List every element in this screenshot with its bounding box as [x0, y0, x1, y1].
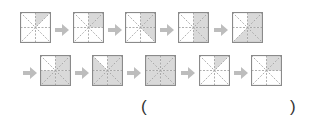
pattern-square-r1-5: [232, 12, 263, 43]
pattern-square-r1-2: [73, 12, 104, 43]
answer-open-paren: (: [141, 98, 147, 115]
pattern-square-r1-1: [20, 12, 51, 43]
pattern-square-r2-1: [40, 55, 71, 86]
pattern-square-r2-3: [145, 55, 176, 86]
arrow-right-icon: [160, 22, 174, 34]
arrow-right-icon: [75, 65, 89, 77]
arrow-right-icon: [234, 65, 248, 77]
pattern-square-r2-5: [251, 55, 282, 86]
arrow-right-icon: [55, 22, 69, 34]
arrow-right-icon: [127, 65, 141, 77]
arrow-right-icon: [181, 65, 195, 77]
arrow-right-icon: [214, 22, 228, 34]
pattern-square-r2-4: [199, 55, 230, 86]
answer-close-paren: ): [290, 98, 296, 115]
arrow-right-icon: [108, 22, 122, 34]
pattern-square-r1-4: [178, 12, 209, 43]
pattern-square-r2-2: [92, 55, 123, 86]
arrow-right-icon: [23, 65, 37, 77]
answer-blank[interactable]: [152, 98, 288, 116]
pattern-square-r1-3: [125, 12, 156, 43]
